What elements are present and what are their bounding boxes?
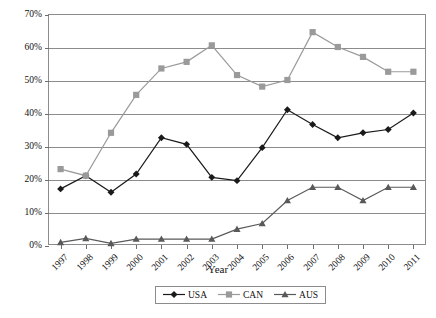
data-point-marker — [83, 173, 89, 179]
y-axis-label: 40% — [2, 108, 42, 118]
x-axis-tick — [187, 245, 188, 249]
series-line — [61, 32, 414, 176]
data-point-marker — [309, 121, 316, 128]
y-axis-label: 70% — [2, 9, 42, 19]
series-can — [58, 29, 417, 179]
series-layer — [48, 14, 426, 245]
series-usa — [57, 106, 417, 195]
data-point-marker — [133, 92, 139, 98]
data-point-marker — [284, 106, 291, 113]
data-point-marker — [158, 134, 165, 141]
x-axis-tick — [413, 245, 414, 249]
data-point-marker — [226, 291, 232, 297]
y-axis-label: 50% — [2, 75, 42, 85]
chart-legend: USACANAUS — [155, 286, 326, 304]
legend-marker-diamond-icon — [163, 289, 185, 300]
data-point-marker — [360, 129, 367, 136]
data-point-marker — [158, 65, 164, 71]
legend-item-aus[interactable]: AUS — [274, 289, 318, 300]
legend-marker-triangle-icon — [274, 289, 296, 300]
x-axis-tick — [161, 245, 162, 249]
data-point-marker — [335, 44, 341, 50]
data-point-marker — [259, 84, 265, 90]
x-axis-tick — [262, 245, 263, 249]
x-axis-tick — [287, 245, 288, 249]
data-point-marker — [410, 110, 417, 117]
x-axis-tick — [313, 245, 314, 249]
y-axis-label: 10% — [2, 207, 42, 217]
x-axis-tick — [212, 245, 213, 249]
legend-label: CAN — [243, 290, 263, 300]
data-point-marker — [284, 77, 290, 83]
y-axis-label: 60% — [2, 42, 42, 52]
legend-label: AUS — [299, 290, 318, 300]
data-point-marker — [58, 166, 64, 172]
y-axis-label: 20% — [2, 174, 42, 184]
data-point-marker — [209, 42, 215, 48]
x-axis-tick — [136, 245, 137, 249]
x-axis-tick — [388, 245, 389, 249]
data-point-marker — [57, 185, 64, 192]
line-chart: 0%10%20%30%40%50%60%70% 1997199819992000… — [0, 0, 436, 318]
x-axis-title: Year — [0, 263, 436, 275]
x-axis-tick — [237, 245, 238, 249]
data-point-marker — [385, 126, 392, 133]
data-point-marker — [410, 69, 416, 75]
data-point-marker — [82, 235, 89, 241]
x-axis-tick — [61, 245, 62, 249]
series-line — [61, 187, 414, 243]
legend-label: USA — [188, 290, 207, 300]
data-point-marker — [310, 29, 316, 35]
x-axis-tick — [86, 245, 87, 249]
x-axis-tick — [363, 245, 364, 249]
data-point-marker — [184, 59, 190, 65]
data-point-marker — [171, 291, 178, 298]
legend-item-can[interactable]: CAN — [218, 289, 263, 300]
data-point-marker — [334, 134, 341, 141]
data-point-marker — [284, 197, 291, 203]
data-point-marker — [108, 130, 114, 136]
x-axis-tick — [338, 245, 339, 249]
data-point-marker — [234, 72, 240, 78]
data-point-marker — [359, 197, 366, 203]
data-point-marker — [360, 54, 366, 60]
data-point-marker — [385, 69, 391, 75]
legend-marker-square-icon — [218, 289, 240, 300]
legend-item-usa[interactable]: USA — [163, 289, 207, 300]
y-axis-label: 30% — [2, 141, 42, 151]
y-axis-label: 0% — [2, 240, 42, 250]
